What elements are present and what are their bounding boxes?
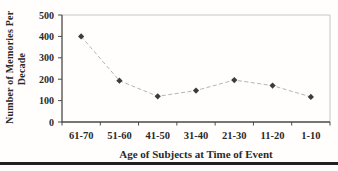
axis-lines: [62, 15, 330, 122]
data-point-marker: [155, 93, 161, 99]
y-axis-title: Number of Memories Per Decade: [4, 14, 28, 124]
y-tick-label: 200: [39, 74, 54, 85]
x-tick-label: 31-40: [184, 130, 209, 141]
x-axis-title: Age of Subjects at Time of Event: [62, 148, 330, 160]
data-point-marker: [193, 87, 199, 93]
line-chart: 010020030040050061-7051-6041-5031-4021-3…: [0, 0, 338, 171]
figure: 010020030040050061-7051-6041-5031-4021-3…: [0, 0, 338, 171]
data-point-marker: [269, 83, 275, 89]
plot-frame: [62, 15, 330, 122]
bottom-rule: [0, 162, 338, 165]
x-tick-label: 61-70: [69, 130, 94, 141]
y-tick-label: 100: [39, 95, 54, 106]
x-tick-label: 41-50: [145, 130, 170, 141]
x-tick-label: 1-10: [301, 130, 320, 141]
x-tick-label: 21-30: [222, 130, 247, 141]
y-axis-title-line1: Number of Memories Per: [4, 14, 16, 124]
data-point-marker: [231, 77, 237, 83]
x-tick-label: 51-60: [107, 130, 132, 141]
data-point-marker: [308, 94, 314, 100]
y-tick-label: 500: [39, 10, 54, 21]
y-tick-label: 300: [39, 52, 54, 63]
y-tick-label: 400: [39, 31, 54, 42]
y-tick-label: 0: [49, 117, 54, 128]
y-axis-title-line2: Decade: [16, 14, 28, 124]
x-tick-label: 11-20: [261, 130, 285, 141]
